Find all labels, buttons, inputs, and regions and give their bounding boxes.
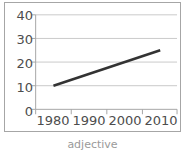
y-tick-label-10: 10 xyxy=(9,81,33,94)
y-tick-label-20: 20 xyxy=(9,57,33,70)
x-axis-tick-labels: 1980 1990 2000 2010 xyxy=(30,110,180,132)
x-tick-label-1990: 1990 xyxy=(72,114,105,127)
x-tick-label-2000: 2000 xyxy=(108,114,141,127)
gridlines xyxy=(36,15,177,86)
figure-caption: adjective xyxy=(0,139,185,150)
data-series-1 xyxy=(53,50,160,85)
x-tick-label-2010: 2010 xyxy=(144,114,177,127)
y-tick-label-30: 30 xyxy=(9,33,33,46)
x-tick-label-1980: 1980 xyxy=(36,114,69,127)
y-tick-label-40: 40 xyxy=(9,9,33,22)
figure: 40 30 20 10 0 1980 1990 2000 2010 adject… xyxy=(0,0,185,150)
